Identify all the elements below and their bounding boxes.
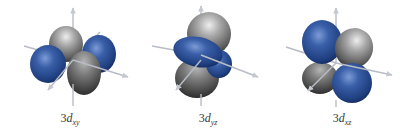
orbital-panel-dyz: 3dyz xyxy=(138,0,278,136)
lobe-gray-front xyxy=(67,51,101,95)
label-subscript: yz xyxy=(211,118,218,127)
label-subscript: xz xyxy=(345,118,352,127)
orbital-label-dxz: 3dxz xyxy=(272,111,412,125)
orbital-panel-dxy: 3dxy xyxy=(0,0,140,136)
label-subscript: xy xyxy=(72,118,79,127)
orbital-label-dyz: 3dyz xyxy=(138,111,278,125)
lobe-blue-left xyxy=(30,45,66,83)
orbital-label-dxy: 3dxy xyxy=(0,111,140,125)
orbital-panel-dxz: 3dxz xyxy=(276,0,416,136)
